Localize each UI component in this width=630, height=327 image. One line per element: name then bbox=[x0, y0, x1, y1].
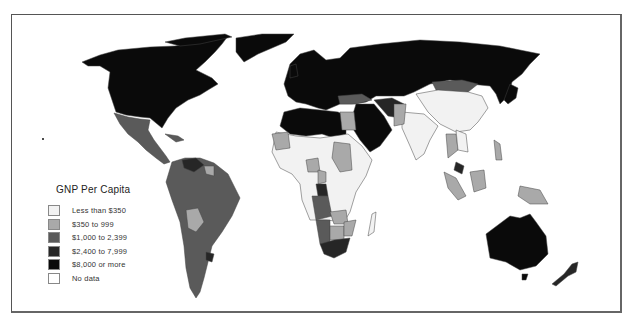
region-philippines bbox=[494, 140, 502, 160]
legend-label: $350 to 999 bbox=[72, 220, 114, 229]
legend-swatch bbox=[48, 246, 60, 257]
region-zimbabwe bbox=[344, 220, 356, 236]
region-egypt bbox=[340, 112, 356, 130]
legend-swatch bbox=[48, 232, 60, 243]
region-botswana bbox=[330, 226, 344, 240]
region-tasmania bbox=[522, 274, 528, 280]
region-thailand bbox=[446, 134, 458, 158]
map-legend: GNP Per Capita Less than $350 $350 to 99… bbox=[48, 184, 178, 285]
region-malaysia bbox=[454, 162, 464, 174]
legend-label: No data bbox=[72, 274, 100, 283]
region-australia bbox=[486, 214, 548, 270]
legend-label: $1,000 to 2,399 bbox=[72, 233, 127, 242]
legend-swatch bbox=[48, 219, 60, 230]
legend-item: $350 to 999 bbox=[48, 218, 178, 232]
region-caribbean bbox=[165, 134, 184, 142]
region-gabon bbox=[316, 184, 328, 196]
region-sumatra bbox=[444, 172, 466, 200]
region-indochina bbox=[456, 130, 468, 152]
legend-title: GNP Per Capita bbox=[56, 184, 178, 195]
region-north-africa bbox=[280, 108, 346, 138]
region-new-zealand bbox=[552, 262, 578, 286]
legend-label: $2,400 to 7,999 bbox=[72, 247, 127, 256]
region-hawaii bbox=[42, 138, 44, 140]
region-north-america bbox=[82, 36, 228, 128]
legend-label: Less than $350 bbox=[72, 206, 126, 215]
legend-swatch bbox=[48, 205, 60, 216]
region-india bbox=[402, 112, 438, 160]
region-pakistan bbox=[394, 104, 406, 126]
region-new-guinea bbox=[518, 186, 548, 204]
legend-swatch bbox=[48, 259, 60, 270]
region-namibia bbox=[316, 220, 330, 244]
legend-item: Less than $350 bbox=[48, 204, 178, 218]
region-borneo bbox=[470, 170, 486, 192]
region-cameroon bbox=[318, 170, 326, 184]
legend-label: $8,000 or more bbox=[72, 260, 126, 269]
legend-item: No data bbox=[48, 272, 178, 286]
region-uruguay bbox=[206, 252, 214, 262]
legend-item: $8,000 or more bbox=[48, 258, 178, 272]
legend-item: $2,400 to 7,999 bbox=[48, 245, 178, 259]
region-europe bbox=[284, 40, 540, 110]
region-greenland bbox=[236, 34, 294, 62]
region-madagascar bbox=[368, 212, 376, 236]
legend-swatch bbox=[48, 273, 60, 284]
legend-item: $1,000 to 2,399 bbox=[48, 231, 178, 245]
